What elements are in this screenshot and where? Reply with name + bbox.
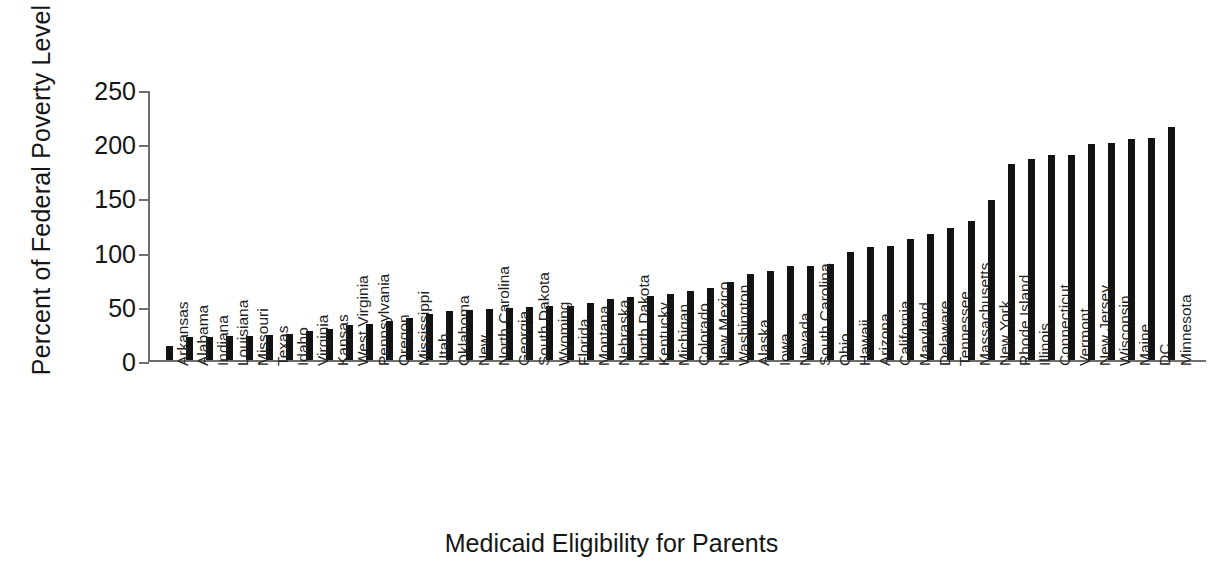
x-axis-tick-label: Idaho [295,327,311,366]
x-axis-tick-label: Alabama [195,305,211,366]
x-axis-tick-label: Hawaii [857,319,873,366]
y-axis-tick-label: 250 [94,79,136,104]
bar [166,346,173,360]
x-axis-tick-labels: ArkansasAlabamaIndianaLouisianaMissouriT… [148,366,1206,516]
x-axis-tick-label: New Jersey [1097,285,1113,366]
x-axis-tick-label: Wyoming [556,302,572,366]
x-axis-tick-label: Mississippi [416,291,432,366]
x-axis-tick-label: Minnesota [1178,294,1194,366]
x-axis-tick-label: Arizona [877,313,893,366]
y-axis-tick-label: 200 [94,133,136,158]
x-axis-tick-label: Connecticut [1057,284,1073,366]
x-axis-tick-label: New [476,335,492,366]
y-axis-title: Percent of Federal Poverty Level [14,20,68,360]
x-axis-tick-label: Florida [576,319,592,366]
bar [1168,127,1175,360]
x-axis-tick-label: Massachusetts [977,263,993,366]
x-axis-tick-label: Georgia [516,311,532,366]
x-axis-tick-label: North Carolina [496,266,512,366]
x-axis-tick-label: Rhode Island [1017,275,1033,366]
x-axis-tick-label: Wisconsin [1117,295,1133,366]
x-axis-tick-label: Tennessee [957,291,973,366]
y-axis-tick-label: 50 [108,295,136,320]
y-axis-tick [139,362,149,364]
x-axis-tick-label: Kansas [335,314,351,366]
x-axis-tick-label: Oklahoma [456,295,472,366]
x-axis-tick-label: Pennsylvania [376,274,392,366]
bar-chart: Percent of Federal Poverty Level 0501001… [0,0,1223,583]
x-axis-tick-label: Kentucky [656,302,672,366]
x-axis-tick-label: South Dakota [536,272,552,366]
x-axis-tick-label: California [897,301,913,366]
x-axis-tick-label: Maryland [917,302,933,366]
x-axis-tick-label: Colorado [696,303,712,366]
x-axis-tick-label: Washington [736,285,752,366]
x-axis-tick-label: Maine [1137,324,1153,366]
x-axis-tick-label: South Carolina [817,263,833,366]
x-axis-tick-label: New Mexico [716,282,732,366]
x-axis-tick-label: Alaska [756,319,772,366]
y-axis-tick-label: 100 [94,241,136,266]
x-axis-tick-label: Missouri [255,308,271,366]
x-axis-tick-label: Oregon [396,314,412,366]
x-axis-tick-label: Utah [436,333,452,366]
x-axis-tick-label: Louisiana [235,300,251,366]
x-axis-tick-label: Arkansas [175,301,191,366]
x-axis-tick-label: DC [1157,344,1173,366]
x-axis-tick-label: Virginia [315,315,331,366]
x-axis-tick-label: Vermont [1077,308,1093,366]
x-axis-tick-label: Ohio [837,333,853,366]
x-axis-tick-label: Texas [275,326,291,367]
x-axis-tick-label: Montana [596,306,612,366]
x-axis-tick-label: West Virginia [355,275,371,366]
x-axis-tick-label: Michigan [676,304,692,366]
x-axis-title: Medicaid Eligibility for Parents [0,529,1223,558]
x-axis-tick-label: Illinois [1037,323,1053,366]
y-axis-tick-label: 150 [94,187,136,212]
x-axis-tick-label: Indiana [215,315,231,366]
x-axis-tick-label: North Dakota [636,275,652,366]
y-axis-tick-label: 0 [122,350,136,375]
y-axis-tick-labels: 050100150200250 [78,91,136,362]
x-axis-tick-label: Delaware [937,301,953,366]
x-axis-tick-label: Nebraska [616,300,632,366]
x-axis-tick-label: Nevada [797,313,813,366]
x-axis-tick-label: New York [997,301,1013,366]
x-axis-tick-label: Iowa [777,333,793,366]
